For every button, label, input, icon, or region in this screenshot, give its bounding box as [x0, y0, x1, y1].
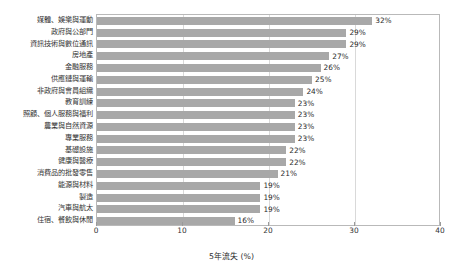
bar-row: 32% — [97, 15, 439, 27]
category-label: 基礎設施 — [0, 144, 93, 156]
bar — [97, 76, 312, 84]
bar-row: 25% — [97, 74, 439, 86]
category-label: 住宿、餐飲與休閒 — [0, 214, 93, 226]
bar — [97, 135, 295, 143]
bar-value-label: 22% — [289, 145, 305, 157]
category-label: 資訊技術與數位通訊 — [0, 38, 93, 50]
bar-row: 23% — [97, 97, 439, 109]
category-label: 消費品的批發零售 — [0, 167, 93, 179]
category-label: 政府與公部門 — [0, 26, 93, 38]
bar-row: 29% — [97, 27, 439, 39]
category-label: 房地產 — [0, 49, 93, 61]
bar — [97, 17, 372, 25]
category-label: 供應鏈與運輸 — [0, 73, 93, 85]
bar — [97, 205, 260, 213]
category-label: 教育訓練 — [0, 96, 93, 108]
x-tick-label: 0 — [94, 226, 99, 235]
bar — [97, 29, 346, 37]
bar — [97, 111, 295, 119]
category-label: 能源與材料 — [0, 179, 93, 191]
bar-row: 19% — [97, 192, 439, 204]
bar — [97, 88, 303, 96]
x-tick-label: 40 — [435, 226, 444, 235]
bar-row: 19% — [97, 203, 439, 215]
bar-value-label: 27% — [332, 51, 348, 63]
bar-value-label: 19% — [263, 180, 279, 192]
bar-row: 29% — [97, 39, 439, 51]
bar-value-label: 23% — [298, 98, 314, 110]
plot-area: 32%29%29%27%26%25%24%23%23%23%23%22%22%2… — [96, 14, 440, 226]
category-label: 媒體、娛樂與運動 — [0, 14, 93, 26]
bar-value-label: 23% — [298, 121, 314, 133]
x-tick-label: 20 — [263, 226, 272, 235]
bar — [97, 64, 321, 72]
category-label: 汽車與航太 — [0, 202, 93, 214]
bar-value-label: 22% — [289, 157, 305, 169]
category-label: 金融服務 — [0, 61, 93, 73]
bar-value-label: 29% — [349, 27, 365, 39]
bar-row: 21% — [97, 168, 439, 180]
bar-row: 23% — [97, 133, 439, 145]
bar — [97, 182, 260, 190]
bar-value-label: 26% — [324, 62, 340, 74]
bar — [97, 123, 295, 131]
bar-row: 22% — [97, 156, 439, 168]
bar-value-label: 29% — [349, 39, 365, 51]
bar-row: 26% — [97, 62, 439, 74]
bar-value-label: 25% — [315, 74, 331, 86]
bar-value-label: 23% — [298, 109, 314, 121]
bar — [97, 40, 346, 48]
x-tick-label: 10 — [177, 226, 186, 235]
bar-value-label: 32% — [375, 15, 391, 27]
bar-row: 23% — [97, 109, 439, 121]
category-axis-labels: 媒體、娛樂與運動政府與公部門資訊技術與數位通訊房地產金融服務供應鏈與運輸非政府與… — [0, 14, 93, 226]
x-axis-title: 5年流失 (%) — [0, 250, 463, 261]
x-axis-ticks: 010203040 — [96, 226, 440, 242]
bar-value-label: 24% — [306, 86, 322, 98]
bar-value-label: 23% — [298, 133, 314, 145]
bar-value-label: 21% — [281, 168, 297, 180]
bar — [97, 52, 329, 60]
bar — [97, 217, 235, 225]
bar-row: 27% — [97, 50, 439, 62]
bar — [97, 170, 278, 178]
bar-row: 24% — [97, 86, 439, 98]
bar — [97, 158, 286, 166]
bar-value-label: 19% — [263, 192, 279, 204]
category-label: 照顧、個人服務與福利 — [0, 108, 93, 120]
category-label: 健康與醫療 — [0, 155, 93, 167]
category-label: 專業服務 — [0, 132, 93, 144]
bar-value-label: 19% — [263, 204, 279, 216]
category-label: 製造 — [0, 191, 93, 203]
bar — [97, 99, 295, 107]
category-label: 非政府與會員組織 — [0, 85, 93, 97]
bar-chart: 媒體、娛樂與運動政府與公部門資訊技術與數位通訊房地產金融服務供應鏈與運輸非政府與… — [0, 0, 463, 274]
bar — [97, 194, 260, 202]
x-tick-label: 30 — [349, 226, 358, 235]
bar-row: 19% — [97, 180, 439, 192]
bar-row: 23% — [97, 121, 439, 133]
bar-row: 22% — [97, 145, 439, 157]
category-label: 農業與自然資源 — [0, 120, 93, 132]
bar — [97, 146, 286, 154]
